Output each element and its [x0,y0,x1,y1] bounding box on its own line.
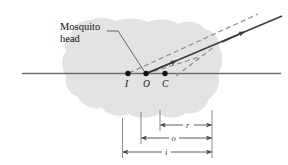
refracted-ray-arrow-outer [222,32,244,42]
point-C [162,71,167,76]
callout-label-line1: Mosquito [60,21,100,32]
ray-diagram-svg: Mosquito head I O C r o i [0,0,288,165]
dimension-o: o [142,133,212,143]
point-label-C: C [162,79,169,89]
callout-label-line2: head [60,33,81,44]
point-O [143,71,148,76]
dimension-i: i [123,147,212,157]
point-label-O: O [143,79,150,89]
point-I [125,71,130,76]
figure-container: Mosquito head I O C r o i [0,0,288,165]
dimension-label-o: o [172,133,176,143]
dimension-label-i: i [165,147,168,157]
dimension-r: r [161,120,212,130]
dimension-label-r: r [186,120,190,130]
